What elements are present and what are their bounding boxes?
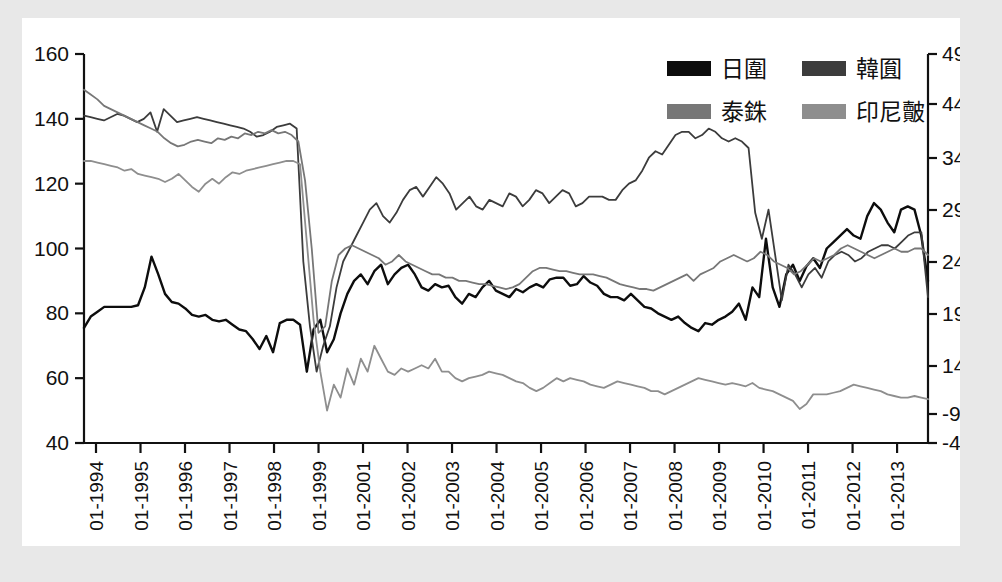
series-line-krw <box>84 109 928 372</box>
x-axis-tick-label: 01-1999 <box>309 461 330 531</box>
legend-label-idr: 印尼皾 <box>856 99 925 125</box>
x-axis-tick-label: 01-1998 <box>264 461 285 531</box>
right-axis: 490440340290240190140-90-40 <box>928 42 960 454</box>
x-axis-tick-label: 01-1997 <box>220 461 241 531</box>
legend-item-krw[interactable]: 韓圎 <box>802 56 902 82</box>
legend-swatch-jpy <box>667 61 711 76</box>
x-axis-tick-label: 01-2006 <box>576 461 597 531</box>
x-axis: 01-199401-199501-199601-199701-199801-19… <box>84 443 928 531</box>
x-axis-tick-label: 01-2009 <box>709 461 730 531</box>
left-axis-tick-label: 120 <box>34 172 69 195</box>
right-axis-tick-label: 340 <box>942 146 960 169</box>
right-axis-tick-label: 190 <box>942 302 960 325</box>
chart-legend[interactable]: 日圍韓圎泰銖印尼皾 <box>667 56 925 125</box>
line-chart[interactable]: 160140120100806040 490440340290240190140… <box>22 18 960 546</box>
series-layer <box>84 90 928 411</box>
left-axis: 160140120100806040 <box>34 42 84 454</box>
left-axis-tick-label: 100 <box>34 237 69 260</box>
x-axis-tick-label: 01-1996 <box>175 461 196 531</box>
right-axis-tick-label: 490 <box>942 42 960 65</box>
screenshot-root: 160140120100806040 490440340290240190140… <box>0 0 1002 582</box>
legend-swatch-idr <box>802 104 846 119</box>
left-axis-tick-label: 160 <box>34 42 69 65</box>
legend-label-thb: 泰銖 <box>721 99 767 125</box>
right-axis-tick-label: -40 <box>942 431 960 454</box>
left-axis-tick-label: 40 <box>46 431 69 454</box>
legend-item-idr[interactable]: 印尼皾 <box>802 99 925 125</box>
x-axis-tick-label: 01-2008 <box>665 461 686 531</box>
right-axis-tick-label: 240 <box>942 250 960 273</box>
x-axis-tick-label: 01-2002 <box>398 461 419 531</box>
x-axis-tick-label: 01-2003 <box>442 461 463 531</box>
legend-swatch-krw <box>802 61 846 76</box>
legend-label-krw: 韓圎 <box>856 56 902 82</box>
x-axis-tick-label: 01-2004 <box>487 461 508 531</box>
legend-item-jpy[interactable]: 日圍 <box>667 56 767 82</box>
left-axis-tick-label: 80 <box>46 301 69 324</box>
x-axis-tick-label: 01-2011 <box>798 461 819 529</box>
chart-canvas[interactable]: 160140120100806040 490440340290240190140… <box>22 18 960 546</box>
right-axis-tick-label: 440 <box>942 92 960 115</box>
x-axis-tick-label: 01-1995 <box>131 461 152 531</box>
right-axis-tick-label: 290 <box>942 198 960 221</box>
left-axis-tick-label: 60 <box>46 366 69 389</box>
legend-item-thb[interactable]: 泰銖 <box>667 99 767 125</box>
chart-card: 160140120100806040 490440340290240190140… <box>22 18 960 546</box>
x-axis-tick-label: 01-2013 <box>887 461 908 531</box>
legend-swatch-thb <box>667 104 711 119</box>
right-axis-tick-label: -90 <box>942 402 960 425</box>
x-axis-tick-label: 01-2007 <box>620 461 641 531</box>
x-axis-tick-label: 01-2012 <box>843 461 864 531</box>
x-axis-tick-label: 01-2010 <box>754 461 775 531</box>
legend-label-jpy: 日圍 <box>721 56 767 82</box>
right-axis-tick-label: 140 <box>942 354 960 377</box>
x-axis-tick-label: 01-2001 <box>353 461 374 531</box>
x-axis-tick-label: 01-1994 <box>86 461 107 531</box>
x-axis-tick-label: 01-2005 <box>531 461 552 531</box>
left-axis-tick-label: 140 <box>34 107 69 130</box>
